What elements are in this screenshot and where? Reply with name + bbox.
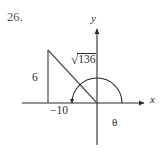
horizontal-leg-label: −10 xyxy=(50,105,68,117)
trigonometry-figure: 26. x y 6 −10 √136 θ xyxy=(0,0,163,154)
x-axis-label: x xyxy=(150,94,155,105)
problem-number: 26. xyxy=(7,11,23,24)
y-axis-label: y xyxy=(91,13,96,24)
hypotenuse-label: √136 xyxy=(71,53,96,66)
radicand-value: 136 xyxy=(77,53,96,66)
figure-drawing xyxy=(0,0,163,154)
angle-theta-label: θ xyxy=(112,117,117,128)
vertical-leg-label: 6 xyxy=(32,72,38,84)
